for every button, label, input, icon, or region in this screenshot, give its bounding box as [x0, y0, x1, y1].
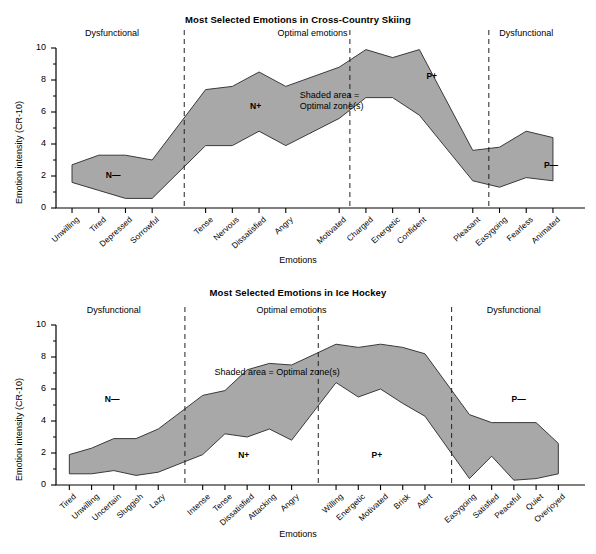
annotation-line-1: Shaded area = Optimal zone(s)	[214, 367, 339, 378]
shaded-area-annotation: Shaded area = Optimal zone(s)	[214, 367, 339, 378]
region-label: Dysfunctional	[481, 28, 571, 38]
zone-label: N+	[238, 450, 249, 460]
region-label: Dysfunctional	[69, 305, 159, 315]
y-axis-title: Emotion intensity (CR-10)	[14, 101, 24, 204]
annotation-line-1: Shaded area =	[300, 90, 364, 101]
y-tick-label: 8	[30, 74, 46, 84]
annotation-line-2: Optimal zone(s)	[300, 101, 364, 112]
region-label: Dysfunctional	[67, 28, 157, 38]
zone-label: P—	[544, 160, 558, 170]
shaded-area-annotation: Shaded area =Optimal zone(s)	[300, 90, 364, 112]
y-tick-label: 4	[30, 138, 46, 148]
y-tick-label: 0	[30, 479, 46, 489]
y-tick-label: 4	[30, 415, 46, 425]
chart-ice-hockey: Most Selected Emotions in Ice Hockey0246…	[0, 277, 596, 554]
y-tick-label: 0	[30, 202, 46, 212]
region-label: Optimal emotions	[247, 305, 337, 315]
region-label: Optimal emotions	[267, 28, 357, 38]
region-label: Dysfunctional	[469, 305, 559, 315]
y-tick-label: 6	[30, 383, 46, 393]
y-tick-label: 2	[30, 170, 46, 180]
zone-label: P—	[512, 394, 526, 404]
zone-label: P+	[426, 71, 437, 81]
zone-label: N—	[105, 394, 120, 404]
optimal-zone-band	[72, 50, 553, 199]
y-tick-label: 2	[30, 447, 46, 457]
zone-label: P+	[372, 450, 383, 460]
y-tick-label: 10	[30, 42, 46, 52]
chart-cross-country-skiing: Most Selected Emotions in Cross-Country …	[0, 0, 596, 277]
y-tick-label: 8	[30, 351, 46, 361]
zone-label: N+	[250, 101, 261, 111]
zone-label: N—	[106, 170, 121, 180]
y-tick-label: 10	[30, 319, 46, 329]
x-axis-title: Emotions	[0, 529, 596, 539]
y-tick-label: 6	[30, 106, 46, 116]
optimal-zone-band	[69, 344, 558, 480]
y-axis-title: Emotion intensity (CR-10)	[14, 378, 24, 481]
x-axis-title: Emotions	[0, 255, 596, 265]
